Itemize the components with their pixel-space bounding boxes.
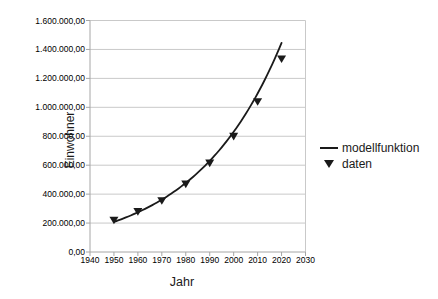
x-tick-label: 2010 xyxy=(248,255,267,265)
y-tick-label: 1.600.000,00 xyxy=(35,16,85,26)
y-tick-label: 1.000.000,00 xyxy=(35,102,85,112)
x-tick-label: 1970 xyxy=(152,255,171,265)
y-axis-title: Einwohner xyxy=(63,112,77,169)
x-axis-title: Jahr xyxy=(170,275,194,289)
x-tick-label: 1980 xyxy=(176,255,195,265)
y-tick-label: 1.400.000,00 xyxy=(35,44,85,54)
legend-item-daten: daten xyxy=(319,156,419,172)
legend-label-daten: daten xyxy=(342,157,372,171)
legend-item-modellfunktion: modellfunktion xyxy=(319,140,419,156)
chart: 0,00200.000,00400.000,00600.000,00800.00… xyxy=(0,0,438,299)
y-tick-label: 200.000,00 xyxy=(42,218,85,228)
x-tick-label: 1960 xyxy=(128,255,147,265)
triangle-down-swatch-icon xyxy=(319,160,338,168)
data-marker-triangle xyxy=(277,55,286,63)
legend: modellfunktion daten xyxy=(319,140,419,172)
x-tick-label: 2030 xyxy=(296,255,315,265)
x-tick-label: 1950 xyxy=(104,255,123,265)
x-tick-label: 2020 xyxy=(272,255,291,265)
legend-label-modellfunktion: modellfunktion xyxy=(342,141,419,155)
x-tick-label: 2000 xyxy=(224,255,243,265)
y-tick-label: 400.000,00 xyxy=(42,189,85,199)
x-tick-label: 1990 xyxy=(200,255,219,265)
line-swatch-icon xyxy=(319,147,338,149)
x-tick-label: 1940 xyxy=(81,255,100,265)
data-marker-triangle xyxy=(253,98,262,106)
model-line xyxy=(114,43,282,222)
y-tick-label: 1.200.000,00 xyxy=(35,73,85,83)
